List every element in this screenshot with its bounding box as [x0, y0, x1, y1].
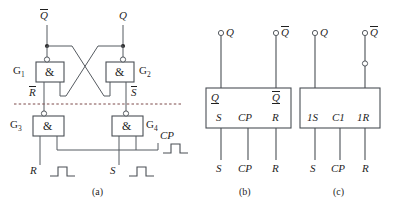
panel-c-input-s-label: S	[310, 163, 316, 174]
figure-container: Q Q G1 G2 G3 G4 & & & & R S R S CP (a) Q…	[0, 0, 395, 208]
panel-c-box-s-label: 1S	[307, 112, 318, 123]
panel-c-terminal-q-label: Q	[320, 27, 328, 38]
caption-c: (c)	[333, 186, 344, 197]
panel-c-input-r-label: R	[362, 163, 369, 174]
panel-c-symbol	[0, 0, 395, 208]
panel-c-box-r-label: 1R	[357, 112, 369, 123]
panel-c-terminal-qbar-label: Q	[370, 27, 378, 38]
panel-c-box-cp-label: C1	[332, 112, 345, 123]
panel-c-input-cp-label: CP	[331, 163, 345, 174]
